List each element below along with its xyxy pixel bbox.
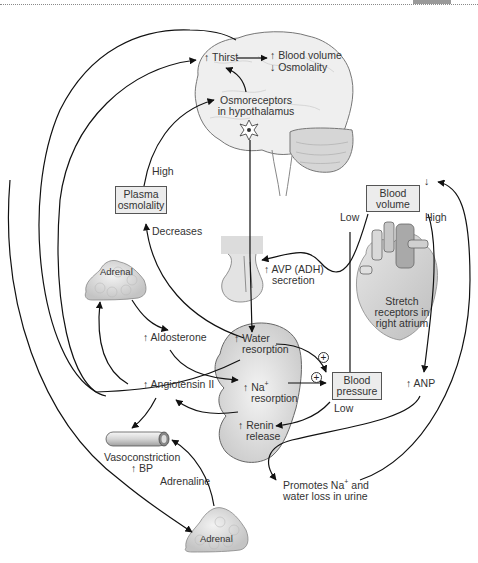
promotes-na-water-loss-label: Promotes Na+ and water loss in urine xyxy=(283,476,369,502)
promotes-line1-end: and xyxy=(348,479,368,491)
blood-volume-decrease-arrow: ↓ xyxy=(424,176,429,187)
avp-line2: secretion xyxy=(264,275,324,286)
pituitary-gland xyxy=(221,236,263,302)
adrenaline-edge-label: Adrenaline xyxy=(160,476,210,487)
low-blood-pressure-edge-label: Low xyxy=(334,403,353,414)
high-blood-volume-edge-label: High xyxy=(425,212,447,223)
blood-volume-line2: volume xyxy=(376,199,410,210)
anp-label: ↑ ANP xyxy=(406,378,435,389)
water-resorption-line2: resorption xyxy=(234,344,289,355)
stretch-receptors-label: Stretch receptors in right atrium xyxy=(372,296,432,329)
na-superscript: + xyxy=(265,380,269,387)
osmoreceptors-label: Osmoreceptors in hypothalamus xyxy=(214,95,298,117)
water-resorption-label: ↑ Water resorption xyxy=(234,333,289,355)
stretch-receptors-line3: right atrium xyxy=(372,318,432,329)
adrenal-bottom-label: Adrenal xyxy=(200,533,233,544)
osmolality-decrease-label: ↓ Osmolality xyxy=(270,62,327,73)
promotes-line2: water loss in urine xyxy=(283,491,369,502)
thirst-label: ↑ Thirst xyxy=(204,52,238,63)
renin-line2: release xyxy=(238,431,280,442)
aldosterone-label: ↑ Aldosterone xyxy=(143,332,207,343)
blood-volume-box: Blood volume xyxy=(366,185,420,212)
promotes-line1: Promotes Na xyxy=(283,479,344,491)
blood-pressure-box: Blood pressure xyxy=(332,372,382,400)
plasma-osmolality-line2: osmolality xyxy=(118,200,165,211)
na-resorption-label: ↑ Na+ resorption xyxy=(243,378,298,404)
diagram-canvas xyxy=(0,0,478,563)
blood-pressure-line2: pressure xyxy=(337,386,378,397)
blood-volume-increase-label: ↑ Blood volume xyxy=(270,50,342,61)
plasma-osmolality-box: Plasma osmolality xyxy=(115,186,167,214)
renin-release-label: ↑ Renin release xyxy=(238,420,280,442)
high-osmolality-edge-label: High xyxy=(152,166,174,177)
angiotensin-ii-label: ↑ Angiotensin II xyxy=(143,379,214,390)
adrenal-gland-bottom xyxy=(185,508,248,552)
osmoreceptors-line2: in hypothalamus xyxy=(214,106,298,117)
decreases-edge-label: Decreases xyxy=(152,226,202,237)
adrenal-top-label: Adrenal xyxy=(100,266,133,277)
positive-effect-icon: + xyxy=(311,372,322,383)
na-resorption-line1: ↑ Na xyxy=(243,381,265,393)
avp-secretion-label: ↑ AVP (ADH) secretion xyxy=(264,264,324,286)
na-resorption-line2: resorption xyxy=(243,393,298,404)
vasoconstriction-line2: ↑ BP xyxy=(104,463,180,474)
blood-vessel-illustration xyxy=(106,432,169,446)
positive-effect-icon: + xyxy=(318,352,329,363)
blood-volume-line1: Blood xyxy=(380,188,407,199)
vasoconstriction-label: Vasoconstriction ↑ BP xyxy=(104,452,180,474)
low-blood-volume-edge-label: Low xyxy=(340,212,359,223)
